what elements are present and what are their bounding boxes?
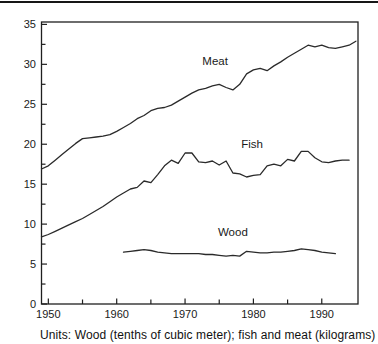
series-line-wood [124,249,336,256]
y-axis-tick-label: 20 [24,138,36,150]
x-axis-tick-label: 1980 [241,308,265,320]
y-axis-tick-label: 5 [30,258,36,270]
y-axis-tick-label: 10 [24,218,36,230]
y-axis-tick-label: 0 [30,298,36,310]
y-axis-tick-label: 25 [24,98,36,110]
y-axis-tick-label: 30 [24,58,36,70]
x-axis-tick-label: 1960 [104,308,128,320]
chart-canvas: 1950196019701980199005101520253035 [0,0,378,322]
figure-page: 1950196019701980199005101520253035 Meat … [0,0,378,344]
y-axis-tick-label: 15 [24,178,36,190]
y-axis-tick-label: 35 [24,18,36,30]
x-axis-tick-label: 1990 [310,308,334,320]
consumption-line-chart: 1950196019701980199005101520253035 Meat … [0,0,378,322]
series-label-meat: Meat [202,55,228,67]
x-axis-tick-label: 1970 [173,308,197,320]
series-label-wood: Wood [218,226,248,238]
series-line-fish [42,151,350,237]
x-axis-tick-label: 1950 [36,308,60,320]
series-line-meat [42,41,356,169]
plot-border [42,22,359,304]
series-label-fish: Fish [241,138,263,150]
units-caption: Units: Wood (tenths of cubic meter); fis… [40,328,378,342]
